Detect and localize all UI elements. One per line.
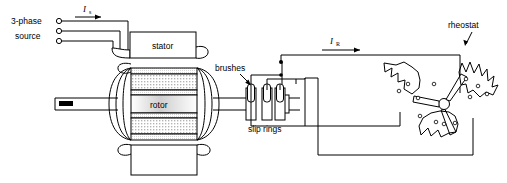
rotor-band-3 [131,90,197,95]
stator-current-subscript: s [89,9,92,15]
rotor-housing-right [197,68,219,140]
rheostat-tap-2[interactable] [476,84,480,88]
rheostat-tap-7[interactable] [416,96,420,100]
rotor-label: rotor [150,100,168,110]
top-bus-to-rheostat [281,55,460,62]
rheostat-tap-5[interactable] [406,82,410,86]
junction-dot-mid [279,73,283,77]
rheostat-tap-11[interactable] [453,121,457,125]
rheostat-bank-left [384,62,420,94]
rheostat-tap-1[interactable] [464,77,468,81]
source-label-line1: 3-phase [11,16,42,26]
shaft-keyway-marker [59,101,73,106]
motor-base-box [131,145,197,175]
stator-mounting-ear-right [196,46,208,58]
source-terminal-3[interactable] [56,38,61,43]
supply-wire-phase3 [62,41,113,50]
rheostat-tap-12[interactable] [468,95,472,99]
stator-group: stator [112,32,208,58]
brushes-label: brushes [215,63,245,73]
rheostat-tap-4[interactable] [432,82,436,86]
rotor-current-annotation: I R [322,36,360,52]
source-terminal-1[interactable] [56,18,61,23]
stator-current-arrow-head [95,15,101,20]
rotor-current-symbol: I [329,36,334,46]
brush3-to-rheostat-left [318,112,400,126]
rheostat-arm-upper-right [446,74,467,101]
motor-base-group [118,144,210,175]
brushes-annotation: brushes [215,63,251,86]
stator-current-annotation: I s [75,4,101,19]
rotor-band-5 [131,113,197,118]
three-phase-source-group: 3-phase source [11,16,62,44]
housing-curve-right-inner [197,68,205,140]
shaft-right-group [213,98,247,110]
diagram-canvas: 3-phase source I s stator [0,0,507,183]
base-ear-left [118,144,131,155]
rheostat-tap-9[interactable] [434,120,438,124]
rheostat-tap-6[interactable] [397,89,401,93]
rotor-band-6 [131,118,197,134]
junction-dot-top [279,60,283,64]
rheostat-tap-3[interactable] [485,92,489,96]
rotor-current-subscript: R [336,41,340,47]
rheostat-group: rheostat [384,20,498,137]
rotor-core-group: rotor [131,68,197,140]
rotor-housing-left [109,68,131,140]
rotor-band-1 [131,68,197,74]
rotor-current-arrow-head [354,48,360,53]
rotor-band-2 [131,74,197,90]
rotor-assembly-group: rotor [55,63,247,175]
motor-rheostat-diagram: 3-phase source I s stator [0,0,507,183]
rheostat-tap-10[interactable] [442,122,446,126]
rotor-band-7 [131,134,197,140]
source-terminal-2[interactable] [56,28,61,33]
source-label-line2: source [15,31,41,41]
stator-cable-gland [112,48,130,58]
rheostat-label: rheostat [448,20,479,30]
stator-label: stator [152,41,173,51]
base-ear-right [197,144,210,155]
rheostat-tap-8[interactable] [418,114,422,118]
housing-curve-left-inner [123,68,131,140]
stator-current-symbol: I [82,4,87,14]
